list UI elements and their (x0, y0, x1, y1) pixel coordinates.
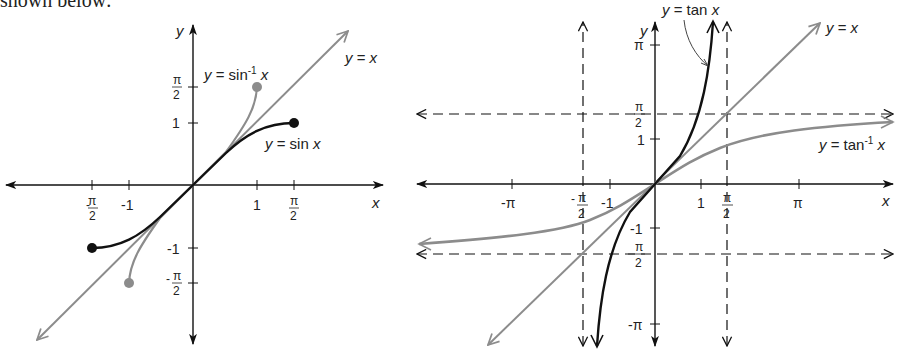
left-sin-label: y = sin x (264, 135, 321, 152)
right-y-axis-label: y (639, 22, 649, 39)
left-x-axis-label: x (371, 194, 380, 211)
svg-text:1: 1 (697, 195, 705, 211)
svg-text:2: 2 (290, 209, 297, 223)
svg-text:π: π (793, 195, 803, 211)
svg-text:π: π (290, 194, 298, 208)
svg-text:-1: -1 (167, 241, 180, 257)
svg-text:-1: -1 (630, 221, 643, 237)
svg-text:2: 2 (723, 207, 730, 221)
svg-text:-π: -π (628, 317, 643, 333)
svg-text:π: π (173, 73, 181, 87)
right-y-tick-labels: π π 2 1 -1 π 2 -π (628, 37, 645, 333)
svg-text:2: 2 (578, 207, 585, 221)
svg-text:1: 1 (172, 115, 180, 131)
left-chart: -π 2 -1 1 π 2 π 2 1 -1 -π 2 y x y = x y … (6, 22, 383, 344)
svg-text:-1: -1 (601, 195, 614, 211)
right-chart: -π -π 2 -1 1 π 2 π π π 2 1 -1 π 2 -π y x (417, 1, 893, 347)
svg-text:2: 2 (89, 209, 96, 223)
svg-text:2: 2 (173, 284, 180, 298)
svg-text:-π: -π (501, 195, 516, 211)
svg-text:2: 2 (635, 116, 642, 130)
right-arctan-label: y = tan-1 x (818, 135, 886, 153)
left-y-axis-label: y (175, 22, 185, 39)
svg-text:π: π (173, 269, 181, 283)
svg-text:π: π (635, 100, 643, 114)
svg-text:-: - (166, 272, 170, 286)
left-identity-label: y = x (344, 49, 378, 66)
svg-text:1: 1 (637, 132, 645, 148)
right-x-tick-labels: -π -π 2 -1 1 π 2 π (501, 191, 803, 221)
svg-text:-: - (571, 192, 575, 206)
svg-text:2: 2 (173, 88, 180, 102)
svg-text:π: π (723, 191, 731, 205)
right-identity-label: y = x (825, 19, 859, 36)
svg-text:π: π (88, 194, 96, 208)
svg-text:π: π (635, 240, 643, 254)
svg-text:2: 2 (635, 256, 642, 270)
right-tan-label: y = tan x (661, 1, 720, 18)
svg-text:-1: -1 (121, 197, 134, 213)
svg-text:1: 1 (253, 197, 261, 213)
right-x-axis-label: x (881, 192, 890, 209)
svg-text:π: π (578, 191, 586, 205)
svg-text:π: π (634, 37, 644, 53)
left-arcsin-label: y = sin-1 x (203, 65, 269, 83)
